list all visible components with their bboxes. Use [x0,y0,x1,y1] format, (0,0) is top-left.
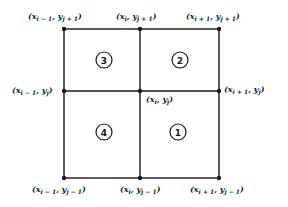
label-mid-left: (xi − 1, yj) [12,85,52,98]
node-dot-top-mid [138,27,142,31]
label-bottom-mid: (xi, yj − 1) [120,184,160,197]
label-center: (xi, yj) [146,94,173,107]
label-bottom-left: (xi − 1, yj − 1) [32,184,86,197]
label-bottom-right: (xi + 1, yj − 1) [190,184,244,197]
outer-square [64,29,219,178]
label-top-mid: (xi, yj + 1) [116,11,156,24]
node-dot-mid-right [217,89,221,93]
node-dot-mid-left [62,89,66,93]
node-dot-bottom-left [62,176,66,180]
cell-3-marker: 3 [96,52,112,68]
cell-1-marker: 1 [170,124,186,140]
node-dot-top-right [217,27,221,31]
cell-4-marker: 4 [96,124,112,140]
cell-2-marker: 2 [172,52,188,68]
cell-1-number: 1 [175,128,181,138]
node-dot-bottom-mid [138,176,142,180]
label-top-right: (xi + 1, yj + 1) [186,11,240,24]
node-dot-top-left [62,27,66,31]
grid-diagram: 3 2 4 1 (xi − 1, yj + 1) (xi, yj + 1) (x… [0,0,288,207]
cell-3-number: 3 [101,56,107,66]
node-dot-bottom-right [217,176,221,180]
grid-lines: 3 2 4 1 [0,0,288,207]
cell-4-number: 4 [101,128,107,138]
label-mid-right: (xi + 1, yj) [224,84,264,97]
label-top-left: (xi − 1, yj + 1) [28,11,82,24]
cell-2-number: 2 [177,56,183,66]
node-dot-center [138,89,142,93]
